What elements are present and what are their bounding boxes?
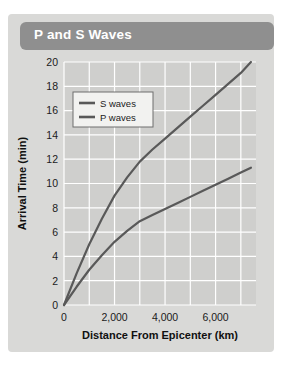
legend-label-s-waves: S waves [100,98,136,109]
x-axis-tick-label: 0 [61,311,67,323]
x-axis-tick-label: 4,000 [152,311,178,323]
y-axis-tick-label: 10 [46,177,58,189]
chart-plot-container: 0246810121416182002,0004,0006,000Distanc… [0,0,282,371]
legend-label-p-waves: P waves [100,112,136,123]
x-axis-title: Distance From Epicenter (km) [82,329,238,341]
y-axis-tick-label: 12 [46,153,58,165]
p-and-s-waves-chart: 0246810121416182002,0004,0006,000Distanc… [0,0,282,371]
y-axis-tick-label: 14 [46,129,58,141]
y-axis-title: Arrival Time (min) [16,137,28,231]
y-axis-tick-label: 20 [46,56,58,68]
y-axis-tick-label: 6 [52,226,58,238]
y-axis-tick-label: 18 [46,80,58,92]
y-axis-tick-label: 16 [46,104,58,116]
y-axis-tick-label: 4 [52,250,58,262]
y-axis-tick-label: 2 [52,275,58,287]
x-axis-tick-label: 6,000 [202,311,228,323]
y-axis-tick-label: 8 [52,202,58,214]
y-axis-tick-label: 0 [52,299,58,311]
x-axis-tick-label: 2,000 [101,311,127,323]
